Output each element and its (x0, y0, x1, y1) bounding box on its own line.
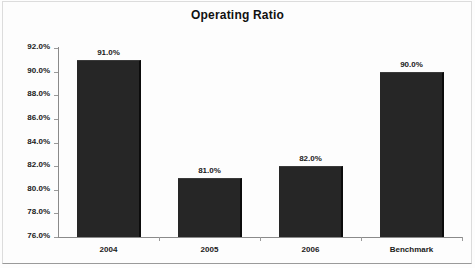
y-axis-tick-mark (54, 95, 58, 96)
bar (380, 72, 444, 237)
x-axis-tick-mark (462, 237, 463, 241)
chart-title: Operating Ratio (0, 8, 475, 22)
y-axis-tick-label: 78.0% (27, 207, 50, 216)
y-axis-tick-label: 76.0% (27, 231, 50, 240)
y-axis-tick-label: 82.0% (27, 160, 50, 169)
bar-value-label: 82.0% (281, 154, 341, 163)
y-axis-tick-label: 86.0% (27, 113, 50, 122)
bar (279, 166, 343, 237)
y-axis-tick-mark (54, 143, 58, 144)
y-axis-tick-mark (54, 237, 58, 238)
bar-value-label: 91.0% (79, 48, 139, 57)
x-axis-category-label: 2004 (69, 245, 149, 254)
x-axis-category-label: 2006 (271, 245, 351, 254)
y-axis-tick-mark (54, 119, 58, 120)
x-axis-tick-mark (361, 237, 362, 241)
y-axis-tick-mark (54, 213, 58, 214)
y-axis-tick-mark (54, 190, 58, 191)
bar-value-label: 81.0% (180, 166, 240, 175)
y-axis-tick-mark (54, 72, 58, 73)
y-axis-tick-label: 92.0% (27, 42, 50, 51)
bar-value-label: 90.0% (382, 60, 442, 69)
y-axis-tick-mark (54, 48, 58, 49)
y-axis-line (58, 47, 59, 238)
x-axis-tick-mark (260, 237, 261, 241)
y-axis-tick-label: 88.0% (27, 89, 50, 98)
y-axis-tick-label: 90.0% (27, 66, 50, 75)
x-axis-category-label: 2005 (170, 245, 250, 254)
bar (77, 60, 141, 237)
x-axis-tick-mark (159, 237, 160, 241)
y-axis-tick-label: 84.0% (27, 137, 50, 146)
x-axis-category-label: Benchmark (372, 245, 452, 254)
y-axis-tick-label: 80.0% (27, 184, 50, 193)
y-axis-tick-mark (54, 166, 58, 167)
bar (178, 178, 242, 237)
operating-ratio-chart: Operating Ratio 92.0%90.0%88.0%86.0%84.0… (0, 0, 475, 268)
